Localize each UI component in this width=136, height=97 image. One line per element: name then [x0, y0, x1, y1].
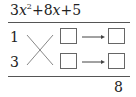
bottom-divider: [8, 76, 130, 77]
sum-value: 8: [114, 79, 123, 95]
